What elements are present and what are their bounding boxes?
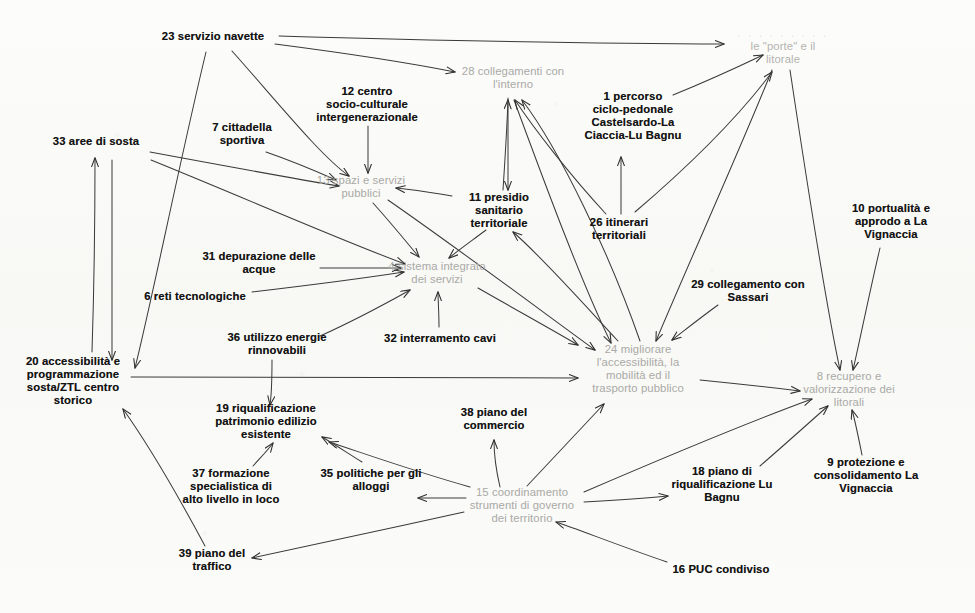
edge-9-to-8 [852,410,862,455]
node-24[interactable]: 24 migliorare l'accessibilità, la mobili… [592,343,684,395]
node-26[interactable]: 26 itinerari territoriali [590,216,648,242]
node-16[interactable]: 16 PUC condiviso [672,563,769,576]
node-4[interactable]: 4 sistema integrato dei servizi [388,260,485,286]
edge-15-to-38 [494,440,500,487]
node-10[interactable]: 10 portualità e approdo a La Vignaccia [852,202,930,241]
edge-23-to-28 [275,44,455,72]
edge-29-to-24 [672,305,718,340]
edge-23-to-21 [279,36,724,44]
edge-36-to-4 [320,290,410,336]
edge-23-to-20 [135,52,206,368]
node-29[interactable]: 29 collegamento con Sassari [691,278,805,304]
node-33[interactable]: 33 aree di sosta [53,135,139,148]
node-19[interactable]: 19 riqualificazione patrimonio edilizio … [215,402,317,441]
node-37[interactable]: 37 formazione specialistica di alto live… [183,467,280,506]
node-23[interactable]: 23 servizio navette [162,30,264,43]
edge-20-to-24 [131,377,578,378]
edge-13-to-4 [373,203,419,257]
node-9[interactable]: 9 protezione e consolidamento La Vignacc… [814,456,919,495]
edge-24-to-11 [513,232,618,341]
edge-24-to-8 [700,380,800,391]
node-28[interactable]: 28 collegamenti con l'interno [462,65,564,91]
edge-16-to-15 [556,522,667,562]
node-7[interactable]: 7 cittadella sportiva [212,121,272,147]
diagram-canvas: 23 servizio navette28 collegamenti con l… [0,0,975,613]
node-20[interactable]: 20 accessibilità e programmazione sosta/… [26,355,120,407]
edge-15-to-39 [252,512,464,558]
edge-11-to-28 [503,100,508,190]
edge-11-to-4 [449,230,486,258]
node-13[interactable]: 13 spazi e servizi pubblici [317,174,405,200]
node-38[interactable]: 38 piano del commercio [461,406,528,432]
edge-35-to-19 [322,437,362,462]
node-36[interactable]: 36 utilizzo energie rinnovabili [227,331,326,357]
node-8[interactable]: 8 recupero e valorizzazione dei litorali [803,370,895,409]
edge-21-to-8 [790,70,840,370]
node-1[interactable]: 1 percorso ciclo-pedonale Castelsardo-La… [584,90,681,142]
node-32[interactable]: 32 interramento cavi [384,332,496,345]
node-21[interactable]: . . . . . . . . .le "porte" e il litoral… [738,27,829,66]
edge-15-to-24 [527,404,604,486]
node-21-label: le "porte" e il litorale [738,40,829,66]
node-31[interactable]: 31 depurazione delle acque [202,250,315,276]
node-12[interactable]: 12 centro socio-culturale intergenerazio… [316,85,418,124]
node-15[interactable]: 15 coordinamento strumenti di governo de… [470,486,574,525]
edge-36-to-19 [270,360,272,405]
node-39[interactable]: 39 piano del traffico [179,547,246,573]
node-21-illegible-line: . . . . . . . . . [738,27,829,40]
node-6[interactable]: 6 reti tecnologiche [144,290,246,303]
edge-37-to-19 [253,443,273,466]
node-35[interactable]: 35 politiche per gli alloggi [320,467,421,493]
edge-32-to-4 [438,292,439,327]
node-18[interactable]: 18 piano di riqualificazione Lu Bagnu [671,465,772,504]
node-11[interactable]: 11 presidio sanitario territoriale [469,191,529,230]
edge-15-to-18 [584,496,668,502]
edge-10-to-8 [853,248,880,370]
edge-20-to-33 [92,158,95,352]
